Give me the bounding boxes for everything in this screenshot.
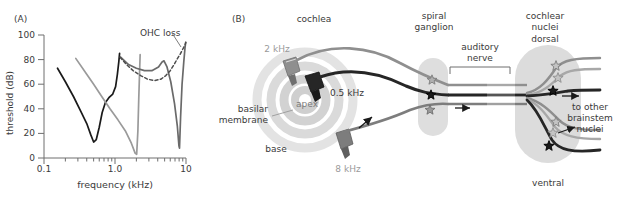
y-tick-label-40: 40 — [24, 104, 36, 114]
label-dorsal: dorsal — [531, 34, 559, 44]
label-basilar-line2: membrane — [219, 115, 269, 125]
hair-cell-8khz — [336, 129, 353, 159]
panel-a-label: (A) — [14, 14, 27, 24]
tuning-curve — [76, 55, 140, 155]
tuning-curves — [58, 42, 186, 154]
header-spiral-ganglion-line1: spiral — [422, 11, 447, 21]
x-tick-label-0.1: 0.1 — [37, 164, 51, 174]
tuning-curve — [120, 42, 186, 80]
label-base: base — [265, 144, 287, 154]
label-8khz: 8 kHz — [335, 164, 361, 174]
panel-b: (B) cochlea spiral ganglion cochlear nuc… — [219, 11, 613, 188]
header-cochlea: cochlea — [297, 14, 332, 24]
y-tick-label-60: 60 — [24, 79, 36, 89]
header-cochlear-nuclei-line2: nuclei — [532, 22, 559, 32]
label-to-other-line1: to other — [572, 102, 608, 112]
panel-a: (A) threshold (dB) 100 80 60 40 20 0 0.1… — [5, 14, 192, 190]
label-0.5khz: 0.5 kHz — [330, 88, 364, 98]
header-cochlear-nuclei-line1: cochlear — [526, 11, 565, 21]
figure-container: (A) threshold (dB) 100 80 60 40 20 0 0.1… — [0, 0, 621, 197]
label-to-other-line3: nuclei — [577, 124, 604, 134]
header-spiral-ganglion-line2: ganglion — [415, 22, 454, 32]
tuning-curve — [58, 53, 120, 142]
tuning-curve — [121, 42, 186, 148]
y-tick-label-0: 0 — [29, 153, 35, 163]
label-to-other-line2: brainstem — [567, 113, 613, 123]
label-auditory-line2: nerve — [467, 53, 493, 63]
y-tick-label-80: 80 — [24, 55, 36, 65]
y-axis-ticks: 100 80 60 40 20 0 — [18, 30, 44, 163]
label-2khz: 2 kHz — [264, 44, 290, 54]
label-auditory-line1: auditory — [461, 42, 499, 52]
figure-svg: (A) threshold (dB) 100 80 60 40 20 0 0.1… — [0, 0, 621, 197]
x-axis-label: frequency (kHz) — [77, 179, 153, 190]
y-axis-label: threshold (dB) — [5, 71, 15, 135]
x-tick-label-1.0: 1.0 — [108, 164, 123, 174]
y-tick-label-20: 20 — [24, 128, 36, 138]
panel-b-label: (B) — [232, 14, 245, 24]
label-basilar-line1: basilar — [238, 104, 268, 114]
x-tick-label-10: 10 — [180, 164, 192, 174]
auditory-nerve-bracket — [450, 67, 510, 74]
y-tick-label-100: 100 — [18, 30, 35, 40]
label-ventral: ventral — [532, 178, 564, 188]
